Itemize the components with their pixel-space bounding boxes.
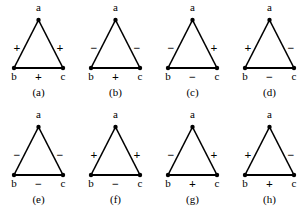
vertex-dot-a <box>113 18 117 22</box>
triangle-panel-d: a b c + − − (d) <box>231 0 308 107</box>
figure-row-top: a b c + + + (a) a b c − − + (b) <box>0 0 308 107</box>
vertex-label-c: c <box>133 71 147 82</box>
panel-caption: (d) <box>231 86 308 98</box>
panel-caption: (e) <box>0 193 77 205</box>
vertex-label-b: b <box>7 71 21 82</box>
edge-sign-bc: − <box>32 178 46 190</box>
vertex-label-c: c <box>56 178 70 189</box>
triangle-panel-e: a b c − − − (e) <box>0 107 77 214</box>
panel-caption: (c) <box>154 86 231 98</box>
edge-sign-ac: − <box>53 149 67 161</box>
vertex-label-b: b <box>161 71 175 82</box>
vertex-dot-a <box>113 125 117 129</box>
edge-sign-ab: − <box>87 42 101 54</box>
edge-sign-ac: + <box>53 42 67 54</box>
vertex-dot-a <box>267 18 271 22</box>
edge-sign-ab: − <box>164 149 178 161</box>
triangle-panel-c: a b c − + − (c) <box>154 0 231 107</box>
vertex-label-a: a <box>32 2 46 13</box>
vertex-label-a: a <box>109 2 123 13</box>
vertex-label-a: a <box>109 109 123 120</box>
triangle-panel-h: a b c + − + (h) <box>231 107 308 214</box>
edge-sign-ac: + <box>207 149 221 161</box>
vertex-label-c: c <box>56 71 70 82</box>
edge-sign-bc: − <box>263 71 277 83</box>
triangle-panel-g: a b c − + + (g) <box>154 107 231 214</box>
vertex-label-c: c <box>210 71 224 82</box>
edge-sign-ab: + <box>241 42 255 54</box>
triangle-panel-f: a b c + + − (f) <box>77 107 154 214</box>
edge-sign-ac: + <box>207 42 221 54</box>
vertex-dot-a <box>36 18 40 22</box>
vertex-label-b: b <box>238 178 252 189</box>
edge-sign-ac: − <box>284 42 298 54</box>
edge-sign-ab: − <box>10 149 24 161</box>
vertex-label-b: b <box>84 71 98 82</box>
vertex-label-c: c <box>210 178 224 189</box>
vertex-dot-a <box>190 18 194 22</box>
edge-sign-bc: − <box>186 71 200 83</box>
vertex-label-b: b <box>161 178 175 189</box>
edge-sign-bc: + <box>263 178 277 190</box>
vertex-label-b: b <box>238 71 252 82</box>
edge-sign-ab: + <box>10 42 24 54</box>
edge-sign-ac: + <box>130 149 144 161</box>
vertex-dot-a <box>267 125 271 129</box>
triangle-panel-a: a b c + + + (a) <box>0 0 77 107</box>
vertex-label-b: b <box>84 178 98 189</box>
edge-sign-ac: − <box>284 149 298 161</box>
panel-caption: (f) <box>77 193 154 205</box>
panel-caption: (a) <box>0 86 77 98</box>
vertex-label-a: a <box>186 109 200 120</box>
panel-caption: (b) <box>77 86 154 98</box>
vertex-label-b: b <box>7 178 21 189</box>
vertex-label-c: c <box>133 178 147 189</box>
signed-triangle-figure: a b c + + + (a) a b c − − + (b) <box>0 0 308 214</box>
edge-sign-ab: + <box>241 149 255 161</box>
vertex-label-a: a <box>263 109 277 120</box>
edge-sign-bc: + <box>109 71 123 83</box>
vertex-label-c: c <box>287 178 301 189</box>
vertex-label-a: a <box>263 2 277 13</box>
edge-sign-ab: − <box>164 42 178 54</box>
figure-row-bottom: a b c − − − (e) a b c + + − (f) <box>0 107 308 214</box>
vertex-label-a: a <box>32 109 46 120</box>
panel-caption: (h) <box>231 193 308 205</box>
edge-sign-bc: − <box>109 178 123 190</box>
triangle-panel-b: a b c − − + (b) <box>77 0 154 107</box>
edge-sign-ab: + <box>87 149 101 161</box>
vertex-dot-a <box>190 125 194 129</box>
edge-sign-ac: − <box>130 42 144 54</box>
vertex-label-a: a <box>186 2 200 13</box>
vertex-dot-a <box>36 125 40 129</box>
panel-caption: (g) <box>154 193 231 205</box>
vertex-label-c: c <box>287 71 301 82</box>
edge-sign-bc: + <box>32 71 46 83</box>
edge-sign-bc: + <box>186 178 200 190</box>
